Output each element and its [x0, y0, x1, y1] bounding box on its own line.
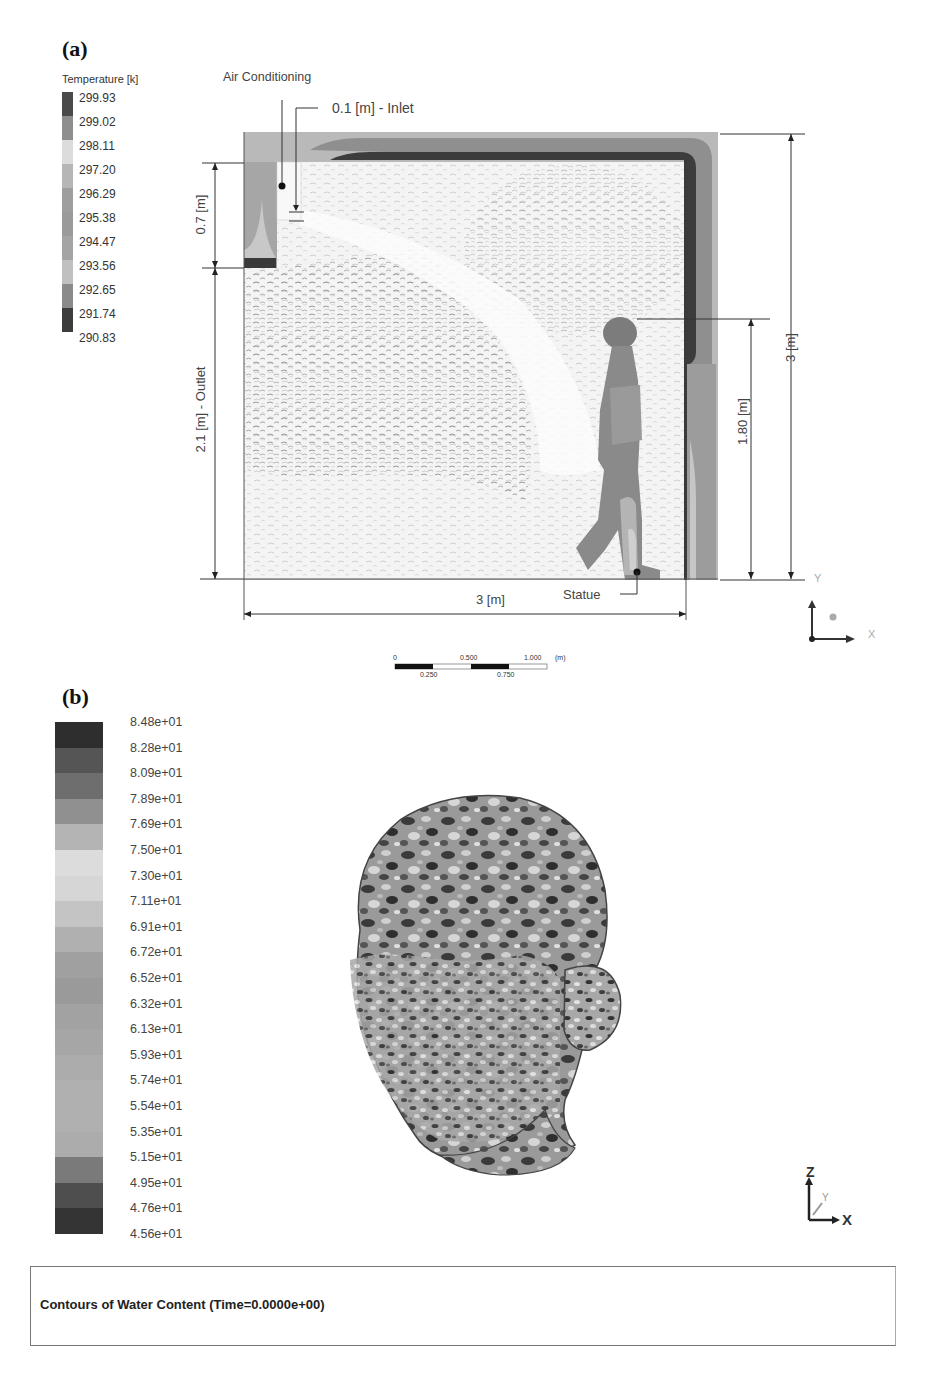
y-axis-label: Y — [822, 1192, 829, 1203]
water-content-legend-value: 4.95e+01 — [130, 1177, 182, 1190]
colorbar-band — [55, 799, 103, 825]
colorbar-band — [55, 748, 103, 774]
room-height-label: 3 [m] — [783, 328, 798, 368]
colorbar-band — [55, 1106, 103, 1132]
water-content-legend-value: 5.74e+01 — [130, 1074, 182, 1087]
water-content-legend-value: 7.11e+01 — [130, 895, 182, 908]
colorbar-band — [55, 1055, 103, 1081]
person-height-label: 1.80 [m] — [735, 392, 750, 452]
z-axis-label: Z — [806, 1164, 815, 1180]
caption-box: Contours of Water Content (Time=0.0000e+… — [30, 1266, 896, 1346]
colorbar-band — [55, 1132, 103, 1158]
colorbar-band — [55, 773, 103, 799]
water-content-legend-value: 6.13e+01 — [130, 1023, 182, 1036]
caption-text: Contours of Water Content (Time=0.0000e+… — [40, 1297, 325, 1312]
scale-bar-label: 1.000 — [524, 654, 542, 661]
water-content-legend-value: 5.54e+01 — [130, 1100, 182, 1113]
colorbar-band — [55, 824, 103, 850]
colorbar-band — [55, 850, 103, 876]
colorbar-band — [55, 927, 103, 953]
water-content-legend-value: 4.76e+01 — [130, 1202, 182, 1215]
statue-label: Statue — [563, 587, 601, 602]
ac-height-label: 0.7 [m] — [193, 185, 208, 245]
scale-bar-label: 0.750 — [497, 671, 515, 678]
colorbar-band — [55, 978, 103, 1004]
panel-b-label: (b) — [62, 684, 89, 710]
water-content-legend-value: 4.56e+01 — [130, 1228, 182, 1241]
air-conditioning-unit — [277, 162, 301, 220]
scale-bar-unit: (m) — [555, 654, 566, 661]
water-content-legend-value: 5.15e+01 — [130, 1151, 182, 1164]
colorbar-band — [55, 952, 103, 978]
water-content-legend-value: 8.28e+01 — [130, 742, 182, 755]
head-model-water-content — [320, 780, 650, 1180]
colorbar-band — [55, 1029, 103, 1055]
water-content-legend-value: 8.09e+01 — [130, 767, 182, 780]
water-content-legend-value: 7.50e+01 — [130, 844, 182, 857]
colorbar-band — [55, 1157, 103, 1183]
colorbar-band — [55, 1004, 103, 1030]
scale-bar-label: 0.500 — [460, 654, 478, 661]
room-width-label: 3 [m] — [476, 592, 505, 607]
water-content-legend-value: 8.48e+01 — [130, 716, 182, 729]
colorbar-band — [55, 1183, 103, 1209]
x-axis-label: X — [868, 628, 875, 640]
water-content-legend-value: 6.52e+01 — [130, 972, 182, 985]
water-content-legend-value: 6.91e+01 — [130, 921, 182, 934]
scale-bar-label: 0.250 — [420, 671, 438, 678]
water-content-legend-value: 6.32e+01 — [130, 998, 182, 1011]
outlet-label: 2.1 [m] - Outlet — [193, 350, 208, 470]
air-conditioning-label: Air Conditioning — [223, 70, 311, 84]
inlet-label: 0.1 [m] - Inlet — [332, 100, 414, 116]
water-content-legend-value: 5.35e+01 — [130, 1126, 182, 1139]
colorbar-band — [55, 1080, 103, 1106]
water-content-legend-value: 5.93e+01 — [130, 1049, 182, 1062]
colorbar-band — [55, 876, 103, 902]
water-content-legend-value: 7.69e+01 — [130, 818, 182, 831]
x-axis-label: X — [842, 1211, 852, 1228]
colorbar-band — [55, 1208, 103, 1234]
colorbar-band — [55, 722, 103, 748]
water-content-legend-value: 6.72e+01 — [130, 946, 182, 959]
water-content-legend-value: 7.30e+01 — [130, 870, 182, 883]
water-content-legend-value: 7.89e+01 — [130, 793, 182, 806]
scale-bar-label: 0 — [393, 654, 397, 661]
colorbar-band — [55, 901, 103, 927]
scale-bar — [395, 664, 547, 669]
y-axis-label: Y — [814, 572, 821, 584]
water-content-colorbar — [55, 722, 103, 1234]
xy-axis-triad-icon — [808, 600, 855, 643]
